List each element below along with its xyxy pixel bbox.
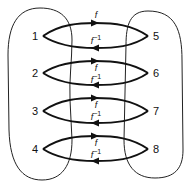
forward-label-3: f — [95, 101, 98, 110]
node-6: 6 — [153, 68, 159, 79]
inverse-label-4: f−1 — [91, 148, 102, 160]
node-3: 3 — [32, 106, 38, 117]
inverse-label-1: f−1 — [91, 34, 102, 46]
left-set-boundary — [8, 8, 72, 180]
node-4: 4 — [32, 144, 38, 155]
inverse-label-2: f−1 — [91, 73, 102, 85]
forward-label-4: f — [95, 139, 98, 148]
inverse-label-3: f−1 — [91, 110, 102, 122]
node-2: 2 — [32, 68, 38, 79]
node-8: 8 — [153, 144, 159, 155]
forward-label-2: f — [95, 64, 98, 73]
node-5: 5 — [153, 31, 159, 42]
node-7: 7 — [153, 106, 159, 117]
node-1: 1 — [32, 31, 38, 42]
forward-label-1: f — [95, 11, 98, 20]
